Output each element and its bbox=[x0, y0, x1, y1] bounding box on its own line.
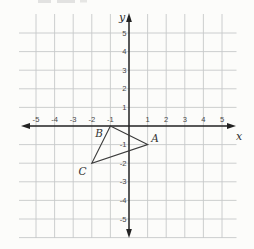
x-axis-right-arrow-icon bbox=[227, 123, 236, 129]
x-tick-label: 3 bbox=[183, 115, 187, 124]
x-tick-label: 4 bbox=[201, 115, 205, 124]
x-axis-label: x bbox=[236, 130, 243, 143]
y-tick-label: -3 bbox=[120, 177, 127, 186]
y-tick-label: 3 bbox=[122, 66, 126, 75]
x-tick-label: -2 bbox=[88, 115, 95, 124]
y-axis-bottom-arrow-icon bbox=[126, 229, 132, 238]
x-tick-label: -5 bbox=[33, 115, 40, 124]
x-tick-label: -3 bbox=[70, 115, 77, 124]
vertex-label-A: A bbox=[150, 132, 159, 144]
x-tick-label: 5 bbox=[220, 115, 224, 124]
y-axis-label: y bbox=[118, 11, 126, 24]
scan-artifact-smudge bbox=[38, 0, 87, 3]
y-tick-label: -4 bbox=[120, 196, 127, 205]
vertex-label-C: C bbox=[78, 165, 86, 177]
smudge-mark bbox=[80, 0, 87, 3]
smudge-mark bbox=[38, 0, 51, 3]
x-tick-label: -1 bbox=[107, 115, 114, 124]
x-tick-label: -4 bbox=[51, 115, 58, 124]
y-tick-label: 1 bbox=[122, 103, 126, 112]
y-tick-label: -1 bbox=[120, 140, 127, 149]
y-tick-label: 5 bbox=[122, 29, 126, 38]
vertex-label-B: B bbox=[94, 127, 103, 139]
x-tick-label: 2 bbox=[164, 115, 168, 124]
y-tick-label: 2 bbox=[122, 84, 126, 93]
x-tick-label: 1 bbox=[145, 115, 149, 124]
y-tick-label: -5 bbox=[120, 215, 127, 224]
y-axis-top-arrow-icon bbox=[126, 13, 132, 22]
triangle-layer: ABC bbox=[78, 126, 159, 177]
y-tick-label: 4 bbox=[122, 47, 126, 56]
y-tick-label: -2 bbox=[120, 159, 127, 168]
x-axis-left-arrow-icon bbox=[21, 123, 30, 129]
graph-canvas: -5-4-3-2-11234554321-1-2-3-4-5 y x ABC bbox=[0, 0, 254, 249]
smudge-mark bbox=[57, 0, 75, 3]
coordinate-plane-figure: -5-4-3-2-11234554321-1-2-3-4-5 y x ABC bbox=[0, 0, 254, 249]
